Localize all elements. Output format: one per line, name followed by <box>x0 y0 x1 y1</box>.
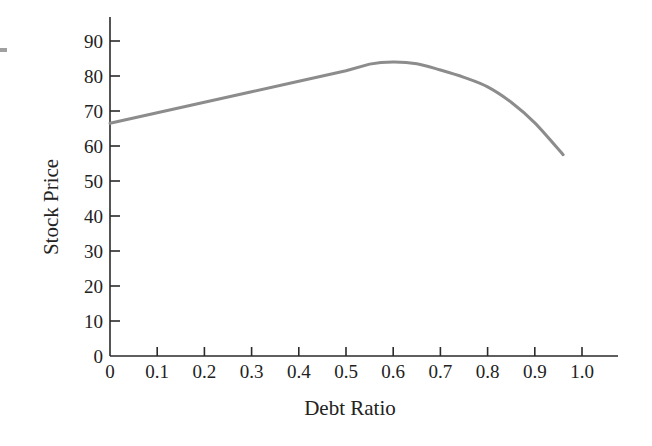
x-tick-label: 0.9 <box>523 361 547 382</box>
x-tick-label: 0.7 <box>429 361 453 382</box>
x-tick-label: 0.6 <box>381 361 405 382</box>
y-tick-label: 80 <box>84 66 103 87</box>
y-axis-title: Stock Price <box>39 159 63 255</box>
y-tick-label: 70 <box>84 101 103 122</box>
y-tick-label: 20 <box>84 276 103 297</box>
y-tick-label: 30 <box>84 241 103 262</box>
x-axis-title: Debt Ratio <box>304 396 396 420</box>
x-tick-label: 0.2 <box>193 361 217 382</box>
x-tick-label: 0.4 <box>287 361 311 382</box>
x-tick-label: 1.0 <box>570 361 594 382</box>
x-tick-label: 0.8 <box>476 361 500 382</box>
y-tick-label: 10 <box>84 311 103 332</box>
x-tick-label: 0.5 <box>334 361 358 382</box>
y-tick-label: 0 <box>94 346 104 367</box>
y-tick-label: 90 <box>84 31 103 52</box>
stock-price-curve <box>110 62 563 155</box>
y-tick-label: 40 <box>84 206 103 227</box>
x-tick-label: 0.1 <box>145 361 169 382</box>
x-tick-label: 0.3 <box>240 361 264 382</box>
x-axis-ticks: 00.10.20.30.40.50.60.70.80.91.0 <box>105 347 594 382</box>
y-axis-ticks: 0102030405060708090 <box>84 31 120 367</box>
x-tick-label: 0 <box>105 361 115 382</box>
y-tick-label: 60 <box>84 136 103 157</box>
line-chart: 0102030405060708090 00.10.20.30.40.50.60… <box>0 0 652 446</box>
y-tick-label: 50 <box>84 171 103 192</box>
